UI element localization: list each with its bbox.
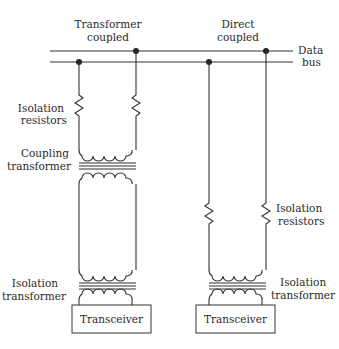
isolation-transformer-primary [79,270,132,281]
title-direct-coupled-2: coupled [217,31,259,43]
coupling-transformer-primary [79,150,132,161]
label-coupling-transformer-2: transformer [7,160,72,172]
label-isolation-transformer-1: Isolation [280,276,326,288]
transformer-coupled-stub: Transceiver [72,48,151,333]
title-direct-coupled-1: Direct [221,18,255,30]
isolation-resistor-left [205,62,213,270]
label-isolation-resistors-2: resistors [21,114,67,126]
title-transformer-coupled-2: coupled [87,31,129,43]
label-coupling-transformer-1: Coupling [21,147,69,159]
isolation-transformer-primary [209,270,262,281]
bus-label-2: bus [302,56,321,68]
label-isolation-resistors-1: Isolation [276,202,322,214]
isolation-resistor-left [75,62,83,150]
isolation-transformer-secondary [209,289,262,305]
label-isolation-transformer-2: transformer [2,290,67,302]
label-isolation-transformer-1: Isolation [12,277,58,289]
direct-coupled-stub: Transceiver [196,48,275,333]
bus-coupling-diagram: Transformer coupled Direct coupled Data … [0,0,339,349]
isolation-transformer-secondary [79,289,132,305]
label-isolation-resistors-1: Isolation [18,102,64,114]
label-isolation-resistors-2: resistors [278,215,324,227]
transceiver-label: Transceiver [204,313,268,325]
transceiver-label: Transceiver [80,313,144,325]
coupling-transformer-secondary [79,173,132,184]
bus-label-1: Data [298,44,323,56]
isolation-resistor-right [262,51,270,270]
label-isolation-transformer-2: transformer [271,289,336,301]
isolation-resistor-right [132,51,140,150]
title-transformer-coupled-1: Transformer [75,18,143,30]
